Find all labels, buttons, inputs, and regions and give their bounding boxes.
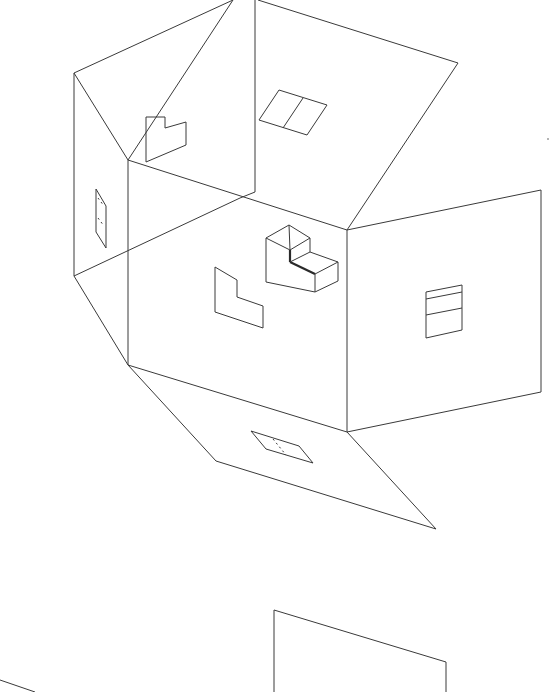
figure-title: Unfolded net of a house with window and …	[0, 0, 1, 1]
l-block-3d	[266, 225, 338, 292]
right-wall-window-icon	[426, 285, 462, 338]
floor-hatch-icon	[251, 431, 313, 463]
roof-window-icon	[259, 90, 327, 135]
front-l-cutout	[215, 267, 263, 328]
crease-line	[74, 192, 255, 276]
left-wall-door-icon	[96, 189, 106, 248]
bottom-right-partial-panel	[274, 610, 446, 692]
stray-dot	[547, 138, 549, 140]
house-net-diagram: Unfolded net of a house with window and …	[0, 0, 560, 692]
roof-right-panel	[255, 0, 458, 230]
roof-left-panel	[74, 0, 233, 160]
bottom-left-fragment	[0, 680, 35, 692]
floor-panel	[128, 365, 436, 529]
